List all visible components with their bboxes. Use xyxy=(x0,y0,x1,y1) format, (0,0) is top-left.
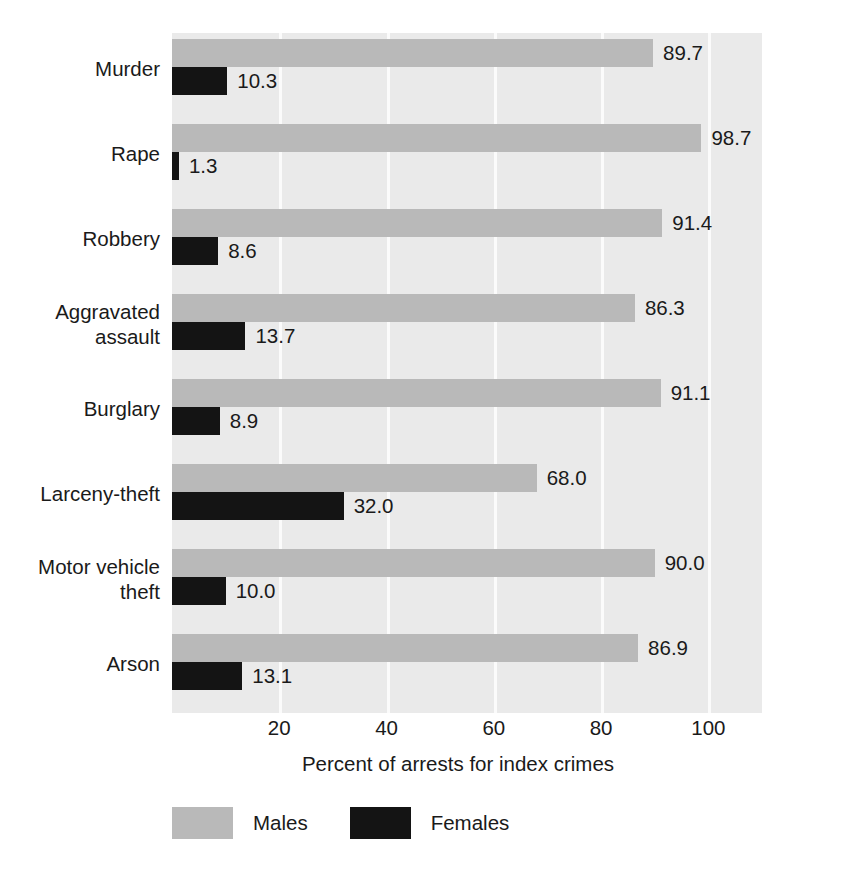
bar-value-label: 32.0 xyxy=(354,492,394,520)
bar-group: 91.48.6 xyxy=(172,203,762,288)
bar-female xyxy=(172,662,242,690)
bars-layer: 89.710.398.71.391.48.686.313.791.18.968.… xyxy=(172,33,762,713)
bar-female xyxy=(172,407,220,435)
bar-male xyxy=(172,209,662,237)
x-axis-tick-labels: 20406080100 xyxy=(172,716,762,746)
legend-swatch-females-icon xyxy=(350,807,411,839)
bar-value-label: 90.0 xyxy=(665,549,705,577)
category-label: Aggravated assault xyxy=(0,299,160,349)
x-tick-label: 40 xyxy=(375,716,398,740)
bar-value-label: 91.4 xyxy=(672,209,712,237)
category-label: Robbery xyxy=(0,226,160,251)
x-axis-title: Percent of arrests for index crimes xyxy=(0,752,856,776)
bar-value-label: 86.3 xyxy=(645,294,685,322)
chart-legend: Males Females xyxy=(172,806,509,840)
legend-label-males: Males xyxy=(253,811,308,835)
category-label: Arson xyxy=(0,651,160,676)
bar-value-label: 86.9 xyxy=(648,634,688,662)
bar-female xyxy=(172,237,218,265)
bar-value-label: 98.7 xyxy=(711,124,751,152)
bar-female xyxy=(172,67,227,95)
bar-value-label: 13.1 xyxy=(252,662,292,690)
legend-label-females: Females xyxy=(431,811,510,835)
bar-female xyxy=(172,322,245,350)
bar-male xyxy=(172,634,638,662)
bar-group: 68.032.0 xyxy=(172,458,762,543)
x-tick-label: 60 xyxy=(482,716,505,740)
bar-female xyxy=(172,152,179,180)
legend-item-females: Females xyxy=(350,807,510,839)
x-tick-label: 100 xyxy=(691,716,725,740)
bar-female xyxy=(172,577,226,605)
bar-female xyxy=(172,492,344,520)
legend-swatch-males-icon xyxy=(172,807,233,839)
bar-group: 86.913.1 xyxy=(172,628,762,713)
bar-value-label: 91.1 xyxy=(671,379,711,407)
bar-value-label: 68.0 xyxy=(547,464,587,492)
bar-value-label: 1.3 xyxy=(189,152,218,180)
bar-group: 90.010.0 xyxy=(172,543,762,628)
bar-group: 86.313.7 xyxy=(172,288,762,373)
bar-value-label: 89.7 xyxy=(663,39,703,67)
bar-male xyxy=(172,379,661,407)
plot-area: 89.710.398.71.391.48.686.313.791.18.968.… xyxy=(172,33,762,713)
bar-male xyxy=(172,294,635,322)
x-tick-label: 80 xyxy=(590,716,613,740)
bar-value-label: 10.0 xyxy=(236,577,276,605)
bar-value-label: 13.7 xyxy=(255,322,295,350)
bar-male xyxy=(172,124,701,152)
bar-male xyxy=(172,549,655,577)
bar-value-label: 8.6 xyxy=(228,237,257,265)
x-tick-label: 20 xyxy=(268,716,291,740)
category-label: Burglary xyxy=(0,396,160,421)
bar-male xyxy=(172,39,653,67)
category-axis-labels: MurderRapeRobberyAggravated assaultBurgl… xyxy=(0,33,160,713)
bar-value-label: 10.3 xyxy=(237,67,277,95)
bar-group: 98.71.3 xyxy=(172,118,762,203)
bar-value-label: 8.9 xyxy=(230,407,259,435)
category-label: Rape xyxy=(0,141,160,166)
category-label: Murder xyxy=(0,56,160,81)
bar-chart-figure: MurderRapeRobberyAggravated assaultBurgl… xyxy=(0,0,856,880)
bar-male xyxy=(172,464,537,492)
legend-item-males: Males xyxy=(172,807,308,839)
bar-group: 91.18.9 xyxy=(172,373,762,458)
bar-group: 89.710.3 xyxy=(172,33,762,118)
category-label: Larceny-theft xyxy=(0,481,160,506)
category-label: Motor vehicle theft xyxy=(0,554,160,604)
